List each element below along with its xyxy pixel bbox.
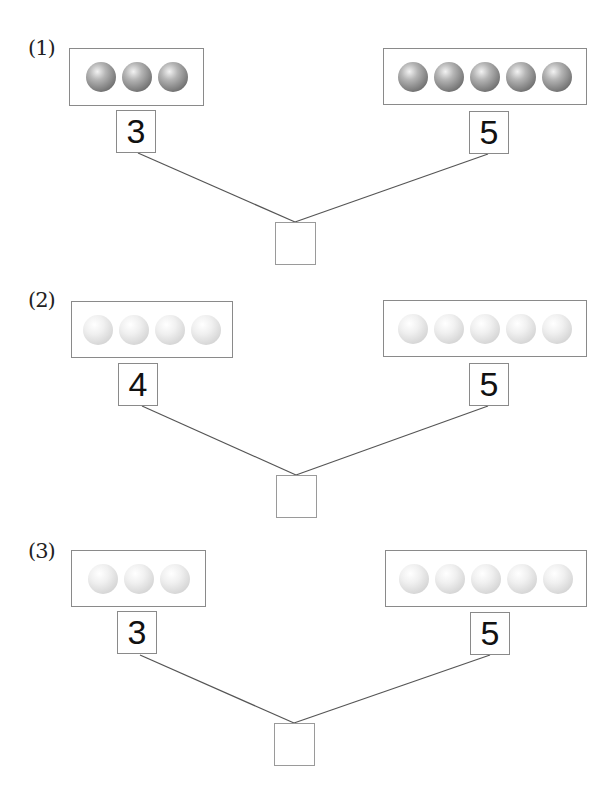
right-number-box: 5 xyxy=(469,111,509,154)
ball-icon xyxy=(158,62,188,92)
problem-2: (2) 4 5 xyxy=(0,288,611,538)
ball-icon xyxy=(119,315,149,345)
ball-icon xyxy=(471,564,501,594)
ball-icon xyxy=(543,564,573,594)
ball-icon xyxy=(507,564,537,594)
left-number-box: 3 xyxy=(116,110,156,153)
ball-icon xyxy=(160,564,190,594)
ball-icon xyxy=(435,564,465,594)
problem-label: (3) xyxy=(28,539,55,563)
ball-icon xyxy=(470,314,500,344)
ball-icon xyxy=(191,315,221,345)
right-ball-group xyxy=(383,300,587,357)
right-ball-group xyxy=(385,550,587,607)
ball-icon xyxy=(470,62,500,92)
ball-icon xyxy=(86,62,116,92)
ball-icon xyxy=(434,62,464,92)
ball-icon xyxy=(155,315,185,345)
left-ball-group xyxy=(71,550,206,607)
ball-icon xyxy=(83,315,113,345)
problem-3: (3) 3 5 xyxy=(0,539,611,789)
left-number-box: 4 xyxy=(118,363,158,406)
ball-icon xyxy=(542,314,572,344)
ball-icon xyxy=(399,564,429,594)
ball-icon xyxy=(506,62,536,92)
right-ball-group xyxy=(383,48,587,105)
ball-icon xyxy=(398,314,428,344)
right-number-box: 5 xyxy=(469,363,509,406)
answer-box[interactable] xyxy=(276,475,317,518)
ball-icon xyxy=(542,62,572,92)
problem-label: (1) xyxy=(28,36,55,60)
ball-icon xyxy=(122,62,152,92)
ball-icon xyxy=(88,564,118,594)
problem-label: (2) xyxy=(28,288,55,312)
answer-box[interactable] xyxy=(274,723,315,766)
left-ball-group xyxy=(69,48,204,106)
problem-1: (1) 3 5 xyxy=(0,36,611,286)
ball-icon xyxy=(506,314,536,344)
ball-icon xyxy=(124,564,154,594)
right-number-box: 5 xyxy=(470,612,510,655)
ball-icon xyxy=(398,62,428,92)
answer-box[interactable] xyxy=(275,222,316,265)
left-number-box: 3 xyxy=(117,611,157,654)
ball-icon xyxy=(434,314,464,344)
left-ball-group xyxy=(71,301,233,358)
